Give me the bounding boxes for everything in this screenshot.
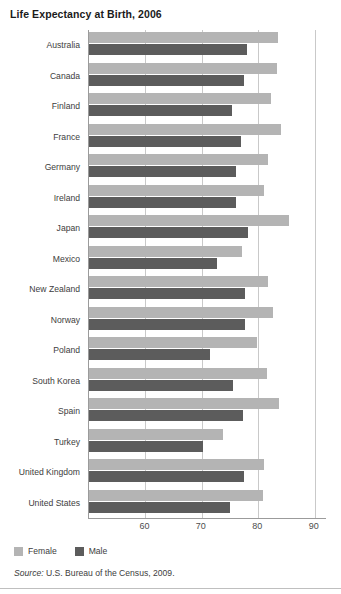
bar-male bbox=[89, 197, 236, 208]
bar-male bbox=[89, 136, 241, 147]
bar-male bbox=[89, 166, 236, 177]
bar-group bbox=[89, 183, 325, 214]
legend-item-female: Female bbox=[14, 546, 57, 556]
bar-group bbox=[89, 305, 325, 336]
bar-group bbox=[89, 213, 325, 244]
category-label: Mexico bbox=[53, 254, 80, 264]
bar-female bbox=[89, 429, 223, 440]
source-text: U.S. Bureau of the Census, 2009. bbox=[46, 568, 175, 578]
legend-swatch-male-icon bbox=[75, 547, 84, 556]
category-label: France bbox=[53, 132, 80, 142]
plot-area bbox=[88, 30, 325, 518]
x-axis-line bbox=[88, 518, 326, 519]
bar-group bbox=[89, 91, 325, 122]
bar-group bbox=[89, 30, 325, 61]
category-label: Turkey bbox=[54, 437, 80, 447]
bar-male bbox=[89, 319, 245, 330]
bar-male bbox=[89, 349, 210, 360]
bar-female bbox=[89, 215, 289, 226]
bar-female bbox=[89, 32, 278, 43]
chart-page: Life Expectancy at Birth, 2006 Australia… bbox=[0, 0, 341, 594]
x-tick-label-90: 90 bbox=[309, 521, 319, 531]
bar-female bbox=[89, 490, 263, 501]
bar-group bbox=[89, 152, 325, 183]
bar-female bbox=[89, 368, 267, 379]
bar-group bbox=[89, 457, 325, 488]
bar-male bbox=[89, 471, 244, 482]
bar-female bbox=[89, 63, 277, 74]
legend-label-female: Female bbox=[28, 546, 57, 556]
bar-female bbox=[89, 459, 264, 470]
category-label: United States bbox=[28, 498, 80, 508]
category-label: New Zealand bbox=[29, 284, 80, 294]
bar-female bbox=[89, 124, 281, 135]
x-tick-label-60: 60 bbox=[139, 521, 149, 531]
chart-title: Life Expectancy at Birth, 2006 bbox=[10, 8, 162, 20]
bar-group bbox=[89, 122, 325, 153]
category-label: Poland bbox=[53, 345, 80, 355]
bar-male bbox=[89, 502, 230, 513]
category-label: Japan bbox=[57, 223, 80, 233]
bar-male bbox=[89, 441, 203, 452]
category-label: Norway bbox=[51, 315, 80, 325]
bar-female bbox=[89, 337, 257, 348]
category-label: Germany bbox=[45, 162, 80, 172]
source-note: Source: U.S. Bureau of the Census, 2009. bbox=[14, 568, 175, 578]
bar-male bbox=[89, 380, 233, 391]
bar-male bbox=[89, 105, 232, 116]
bar-female bbox=[89, 185, 264, 196]
legend-label-male: Male bbox=[89, 546, 108, 556]
category-label: Australia bbox=[47, 40, 80, 50]
category-label: Canada bbox=[50, 71, 80, 81]
bar-female bbox=[89, 93, 271, 104]
category-label: Finland bbox=[52, 101, 80, 111]
bar-male bbox=[89, 288, 245, 299]
category-label: Spain bbox=[58, 406, 80, 416]
category-axis-labels: AustraliaCanadaFinlandFranceGermanyIrela… bbox=[0, 30, 84, 518]
bottom-divider bbox=[0, 588, 341, 589]
bar-male bbox=[89, 75, 244, 86]
bar-female bbox=[89, 398, 279, 409]
bar-group bbox=[89, 274, 325, 305]
bar-rows bbox=[89, 30, 325, 518]
bar-female bbox=[89, 307, 273, 318]
bar-group bbox=[89, 427, 325, 458]
x-tick-label-70: 70 bbox=[196, 521, 206, 531]
x-tick-label-80: 80 bbox=[252, 521, 262, 531]
legend-swatch-female-icon bbox=[14, 547, 23, 556]
x-axis-tick-labels: 60708090 bbox=[88, 521, 325, 535]
legend-item-male: Male bbox=[75, 546, 108, 556]
chart-legend: Female Male bbox=[14, 546, 107, 556]
bar-male bbox=[89, 227, 248, 238]
bar-group bbox=[89, 61, 325, 92]
bar-group bbox=[89, 488, 325, 519]
category-label: United Kingdom bbox=[19, 467, 80, 477]
category-label: South Korea bbox=[32, 376, 80, 386]
bar-female bbox=[89, 246, 242, 257]
bar-group bbox=[89, 244, 325, 275]
source-prefix: Source: bbox=[14, 568, 44, 578]
bar-male bbox=[89, 44, 247, 55]
bar-male bbox=[89, 258, 217, 269]
bar-group bbox=[89, 396, 325, 427]
bar-male bbox=[89, 410, 243, 421]
category-label: Ireland bbox=[54, 193, 80, 203]
bar-group bbox=[89, 335, 325, 366]
bar-female bbox=[89, 154, 268, 165]
bar-group bbox=[89, 366, 325, 397]
bar-female bbox=[89, 276, 268, 287]
